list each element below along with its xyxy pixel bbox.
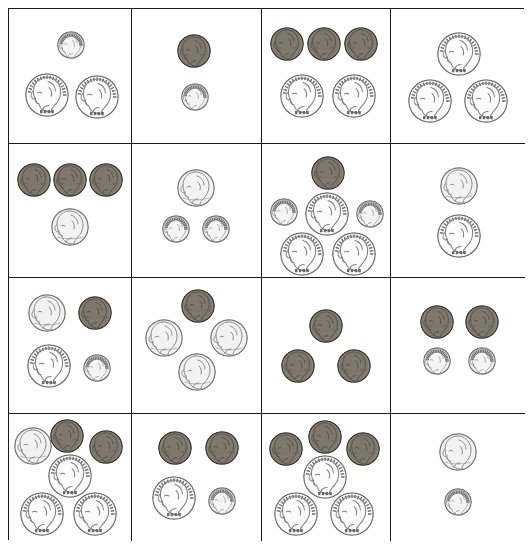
coin-dime[interactable]	[468, 347, 496, 375]
coin-quarter[interactable]	[464, 79, 508, 123]
coin-penny[interactable]	[158, 431, 192, 465]
coin-quarter[interactable]	[20, 492, 64, 536]
coin-quarter[interactable]	[332, 232, 376, 276]
cell-r2c4[interactable]	[391, 144, 525, 278]
coin-penny[interactable]	[281, 349, 315, 383]
coin-quarter[interactable]	[280, 74, 324, 118]
coin-nickel[interactable]	[440, 167, 478, 205]
coin-dime[interactable]	[83, 354, 111, 382]
coin-penny[interactable]	[181, 289, 215, 323]
cell-r3c3[interactable]	[262, 278, 391, 414]
coin-penny[interactable]	[307, 27, 341, 61]
coin-dime[interactable]	[202, 215, 230, 243]
cell-r3c1[interactable]	[9, 278, 132, 414]
coin-dime[interactable]	[162, 215, 190, 243]
coin-quarter[interactable]	[25, 73, 69, 117]
cell-r3c4[interactable]	[391, 278, 525, 414]
coin-penny[interactable]	[269, 432, 303, 466]
cell-r4c1[interactable]	[9, 414, 132, 541]
coin-quarter[interactable]	[152, 476, 196, 520]
cell-r2c2[interactable]	[132, 144, 262, 278]
coin-penny[interactable]	[17, 163, 51, 197]
coin-nickel[interactable]	[28, 294, 66, 332]
coin-dime[interactable]	[270, 198, 298, 226]
coin-quarter[interactable]	[437, 32, 481, 76]
cell-r3c2[interactable]	[132, 278, 262, 414]
coin-penny[interactable]	[420, 305, 454, 339]
coin-nickel[interactable]	[177, 169, 215, 207]
cell-r4c3[interactable]	[262, 414, 391, 541]
coin-dime[interactable]	[208, 487, 236, 515]
cell-r2c1[interactable]	[9, 144, 132, 278]
cell-r2c3[interactable]	[262, 144, 391, 278]
coin-dime[interactable]	[423, 347, 451, 375]
coin-quarter[interactable]	[330, 492, 374, 536]
coin-quarter[interactable]	[408, 79, 452, 123]
coin-dime[interactable]	[181, 83, 209, 111]
coin-penny[interactable]	[337, 349, 371, 383]
coin-penny[interactable]	[89, 163, 123, 197]
coin-penny[interactable]	[89, 430, 123, 464]
cell-r1c3[interactable]	[262, 9, 391, 144]
coin-dime[interactable]	[356, 200, 384, 228]
coin-quarter[interactable]	[274, 492, 318, 536]
coin-quarter[interactable]	[48, 454, 92, 498]
coin-dime[interactable]	[444, 488, 472, 516]
coin-penny[interactable]	[53, 163, 87, 197]
coin-grid	[8, 8, 524, 540]
coin-quarter[interactable]	[27, 344, 71, 388]
cell-r4c2[interactable]	[132, 414, 262, 541]
coin-penny[interactable]	[308, 420, 342, 454]
coin-dime[interactable]	[57, 31, 85, 59]
coin-penny[interactable]	[346, 432, 380, 466]
coin-quarter[interactable]	[303, 455, 347, 499]
cell-r1c1[interactable]	[9, 9, 132, 144]
cell-r1c2[interactable]	[132, 9, 262, 144]
coin-penny[interactable]	[50, 419, 84, 453]
coin-quarter[interactable]	[437, 214, 481, 258]
coin-quarter[interactable]	[73, 492, 117, 536]
coin-quarter[interactable]	[280, 232, 324, 276]
coin-nickel[interactable]	[145, 319, 183, 357]
cell-r1c4[interactable]	[391, 9, 525, 144]
coin-nickel[interactable]	[210, 319, 248, 357]
coin-nickel[interactable]	[178, 353, 216, 391]
coin-penny[interactable]	[465, 305, 499, 339]
coin-nickel[interactable]	[51, 208, 89, 246]
coin-penny[interactable]	[205, 431, 239, 465]
coin-penny[interactable]	[177, 34, 211, 68]
coin-penny[interactable]	[270, 27, 304, 61]
coin-quarter[interactable]	[332, 74, 376, 118]
coin-quarter[interactable]	[75, 75, 119, 119]
coin-penny[interactable]	[78, 296, 112, 330]
coin-nickel[interactable]	[14, 427, 52, 465]
coin-quarter[interactable]	[305, 192, 349, 236]
cell-r4c4[interactable]	[391, 414, 525, 541]
coin-nickel[interactable]	[439, 433, 477, 471]
coin-penny[interactable]	[309, 309, 343, 343]
coin-penny[interactable]	[311, 156, 345, 190]
coin-penny[interactable]	[344, 27, 378, 61]
